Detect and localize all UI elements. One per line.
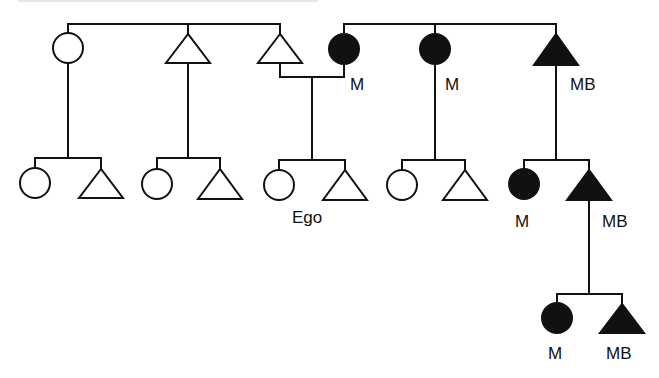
g3-female-filled-icon bbox=[542, 303, 572, 333]
g1-male-open-icon bbox=[258, 34, 302, 63]
label-g1-m-2: M bbox=[445, 76, 459, 93]
g2-female-open-icon bbox=[20, 168, 50, 198]
marriage-connector bbox=[280, 63, 344, 160]
g2-sibling-bar-4 bbox=[402, 160, 465, 170]
g3-sibling-bar bbox=[557, 294, 622, 304]
g2-male-open-icon bbox=[443, 170, 487, 200]
g2-female-open-icon bbox=[142, 169, 172, 199]
label-g2-m: M bbox=[515, 213, 529, 230]
g2-female-filled-icon bbox=[509, 169, 539, 199]
label-g3-m: M bbox=[548, 345, 562, 362]
label-g1-mb: MB bbox=[570, 76, 596, 93]
g2-sibling-bar-5 bbox=[524, 160, 589, 170]
g1-male-open-icon bbox=[166, 34, 210, 63]
g2-sibling-bar-ego bbox=[279, 160, 345, 170]
g2-male-filled-icon bbox=[567, 170, 611, 200]
label-g3-mb: MB bbox=[606, 345, 632, 362]
figure-caption-cropped bbox=[12, 372, 442, 378]
label-g2-mb: MB bbox=[602, 213, 628, 230]
label-ego: Ego bbox=[292, 209, 322, 226]
g2-male-open-icon bbox=[198, 169, 242, 199]
g2-ego-sister-open-icon bbox=[264, 170, 294, 200]
g3-male-filled-icon bbox=[600, 304, 644, 333]
g1-female-filled-icon bbox=[420, 34, 450, 64]
g2-ego-male-open-icon bbox=[323, 170, 367, 200]
label-g1-m-1: M bbox=[350, 76, 364, 93]
g1-right-sibling-bar bbox=[344, 24, 556, 34]
g2-sibling-bar-2 bbox=[157, 158, 220, 169]
g1-left-sibling-bar bbox=[68, 24, 280, 34]
g2-female-open-icon bbox=[387, 170, 417, 200]
g1-female-filled-icon bbox=[329, 34, 359, 64]
g2-sibling-bar-1 bbox=[35, 158, 101, 169]
kinship-diagram bbox=[0, 0, 659, 378]
g1-female-open-icon bbox=[53, 33, 83, 63]
g2-male-open-icon bbox=[79, 169, 123, 198]
g1-male-filled-icon bbox=[534, 34, 578, 65]
